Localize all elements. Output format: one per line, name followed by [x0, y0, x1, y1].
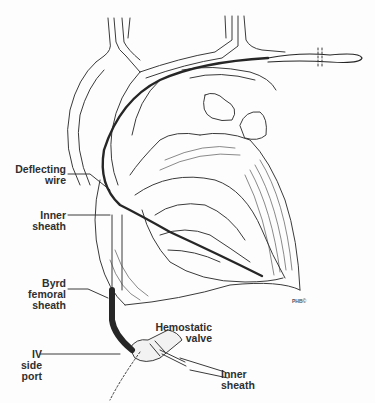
- label-hemostatic-valve: Hemostatic valve: [152, 322, 212, 344]
- artist-credit: PHB©: [292, 298, 306, 304]
- label-byrd-femoral-sheath: Byrd femoral sheath: [14, 278, 66, 311]
- label-inner-sheath-top: Inner sheath: [14, 210, 66, 232]
- label-iv-side-port: IV side port: [0, 349, 42, 382]
- heart-catheter-illustration: Deflecting wire Inner sheath Byrd femora…: [0, 0, 375, 403]
- label-deflecting-wire: Deflecting wire: [14, 164, 66, 186]
- label-inner-sheath-bottom: Inner sheath: [221, 369, 271, 391]
